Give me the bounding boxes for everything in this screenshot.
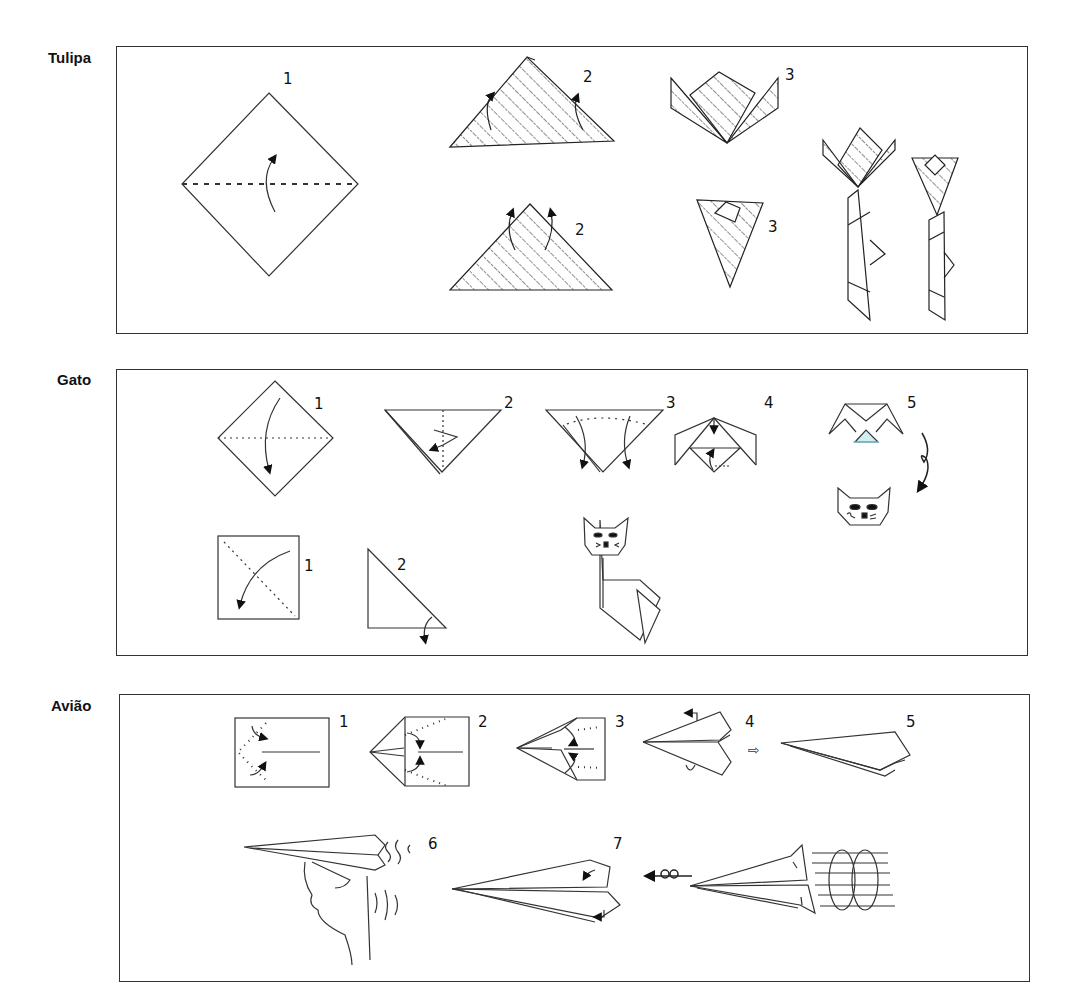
gato-head-step-5-label: 5 xyxy=(907,394,917,412)
gato-body-step-2-label: 2 xyxy=(397,556,407,574)
tulipa-step-3a xyxy=(671,72,778,143)
tulipa-step-1-label: 1 xyxy=(283,70,293,88)
aviao-step-6-label: 6 xyxy=(428,835,438,853)
gato-body-step-2 xyxy=(368,549,446,640)
tulipa-step-2b-label: 2 xyxy=(575,221,585,239)
aviao-step-5-label: 5 xyxy=(906,713,916,731)
next-arrow-icon: ⇨ xyxy=(748,742,760,758)
tulipa-step-3b-label: 3 xyxy=(768,218,778,236)
aviao-step-2 xyxy=(370,717,469,786)
tulipa-final-small xyxy=(912,155,958,320)
aviao-step-4-label: 4 xyxy=(745,713,755,731)
tulipa-final-large xyxy=(823,128,895,320)
loop-lines xyxy=(812,850,895,910)
gato-head-step-1-label: 1 xyxy=(314,395,324,413)
gato-finished-cat xyxy=(584,518,660,643)
gato-body-step-1-label: 1 xyxy=(304,557,314,575)
aviao-step-6 xyxy=(244,835,410,965)
gato-head-step-5 xyxy=(829,404,903,442)
gato-head-step-4 xyxy=(675,418,756,472)
tulipa-step-3a-label: 3 xyxy=(785,66,795,84)
gato-head-step-3 xyxy=(546,410,663,472)
loop-arrow-icon xyxy=(649,870,692,878)
gato-head-step-2 xyxy=(385,410,501,474)
aviao-step-4 xyxy=(643,712,731,775)
gato-head-step-2-label: 2 xyxy=(504,394,514,412)
aviao-step-7-label: 7 xyxy=(613,835,623,853)
aviao-step-5 xyxy=(781,732,910,776)
diagram-art: 1 2 2 3 3 xyxy=(0,0,1080,1006)
gato-head-step-3-label: 3 xyxy=(666,394,676,412)
aviao-step-2-label: 2 xyxy=(478,713,488,731)
tulipa-step-3b xyxy=(697,200,763,287)
aviao-step-1 xyxy=(235,718,329,787)
gato-face xyxy=(838,488,890,525)
turn-over-arrow-icon xyxy=(920,433,928,488)
gato-body-step-1 xyxy=(218,536,299,619)
tulipa-step-2b xyxy=(450,204,612,290)
aviao-loop-plane xyxy=(690,845,815,913)
aviao-step-3 xyxy=(517,718,605,780)
aviao-step-7 xyxy=(452,860,620,922)
gato-head-step-4-label: 4 xyxy=(764,394,774,412)
tulipa-step-1 xyxy=(182,93,358,276)
tulipa-step-2a-label: 2 xyxy=(583,68,593,86)
aviao-step-3-label: 3 xyxy=(615,713,625,731)
aviao-step-1-label: 1 xyxy=(339,713,349,731)
